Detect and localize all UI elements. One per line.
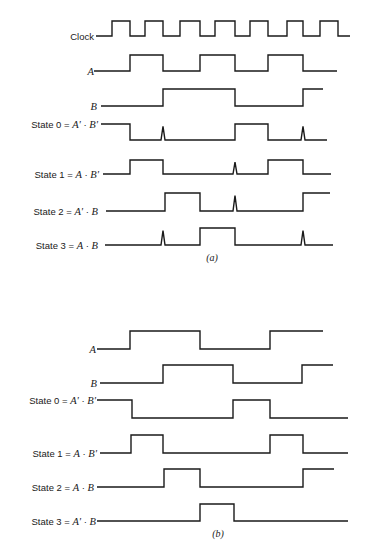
waveform-a: [97, 331, 323, 349]
signal-state-1: State 1 = A · B': [33, 435, 348, 459]
signal-state-3: State 3 = A' · B: [32, 504, 348, 527]
waveform-state-3: [97, 504, 348, 521]
waveform-state-0: [101, 124, 327, 140]
signal-state-0: State 0 = A' · B': [29, 395, 348, 419]
signal-label-b: B: [91, 378, 98, 389]
signal-state-1: State 1 = A · B': [35, 160, 331, 180]
signal-state-2: State 2 = A · B: [32, 469, 334, 493]
signal-label-state-2: State 2 = A · B: [32, 482, 95, 493]
signal-b: B: [91, 89, 323, 112]
signal-label-clock: Clock: [70, 31, 94, 42]
waveform-state-1: [100, 435, 348, 453]
signal-state-0: State 0 = A' · B': [31, 119, 327, 141]
timing-diagram: ClockABState 0 = A' · B'State 1 = A · B'…: [0, 0, 371, 559]
signal-a: A: [89, 331, 323, 355]
waveform-state-2: [97, 469, 334, 487]
signal-label-state-2: State 2 = A' · B: [34, 206, 99, 217]
waveform-clock: [96, 21, 350, 36]
signal-label-a: A: [89, 344, 97, 355]
signal-label-state-3: State 3 = A · B: [36, 240, 99, 251]
signal-label-state-0: State 0 = A' · B': [31, 119, 98, 130]
waveform-b: [100, 365, 333, 383]
panel-caption-a: (a): [206, 252, 218, 264]
signal-label-state-1: State 1 = A · B': [33, 448, 98, 459]
panel-a: ClockABState 0 = A' · B'State 1 = A · B'…: [31, 21, 350, 264]
waveform-state-3: [105, 228, 333, 245]
waveform-b: [101, 89, 323, 106]
panel-caption-b: (b): [212, 528, 224, 540]
signal-label-state-1: State 1 = A · B': [35, 169, 100, 180]
signal-clock: Clock: [70, 21, 350, 42]
signal-label-state-3: State 3 = A' · B: [32, 516, 97, 527]
signal-label-state-0: State 0 = A' · B': [29, 395, 96, 406]
panel-b: ABState 0 = A' · B'State 1 = A · B'State…: [29, 331, 348, 540]
waveform-state-2: [106, 193, 330, 211]
signal-label-a: A: [87, 66, 95, 77]
signal-state-3: State 3 = A · B: [36, 228, 333, 251]
waveform-state-0: [97, 400, 348, 418]
signal-label-b: B: [91, 101, 98, 112]
signal-a: A: [87, 55, 337, 77]
signal-b: B: [91, 365, 333, 389]
waveform-state-1: [103, 160, 331, 174]
signal-state-2: State 2 = A' · B: [34, 193, 330, 217]
waveform-a: [94, 55, 337, 71]
